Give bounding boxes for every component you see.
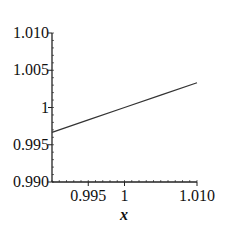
x-tick-label: 1.010: [179, 187, 215, 204]
y-tick-label: 1: [41, 99, 49, 116]
y-tick-label: 0.995: [13, 136, 49, 153]
x-tick-label: 1: [121, 187, 129, 204]
x-axis-title: x: [119, 206, 128, 223]
line-chart: 0.9900.99511.0051.010 0.99511.010 x: [0, 0, 231, 233]
y-tick-labels: 0.9900.99511.0051.010: [13, 24, 52, 190]
y-tick-label: 1.005: [13, 61, 49, 78]
data-line: [52, 83, 197, 133]
x-tick-labels: 0.99511.010: [70, 182, 215, 204]
y-tick-label: 0.990: [13, 173, 49, 190]
x-tick-label: 0.995: [70, 187, 106, 204]
y-tick-label: 1.010: [13, 24, 49, 41]
